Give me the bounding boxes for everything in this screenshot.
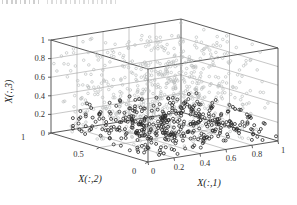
svg-text:0.8: 0.8 [34,53,45,63]
svg-text:1: 1 [41,35,45,45]
svg-text:0: 0 [151,166,155,176]
series-light-gray-cloud [53,22,270,155]
svg-text:0.5: 0.5 [73,149,84,159]
scatter3d-figure: 00.20.40.60.8100.5100.20.40.60.81 X(:,1)… [0,0,297,205]
y-axis-label: X(:,2) [67,173,113,184]
svg-text:0: 0 [41,128,45,138]
svg-text:0.2: 0.2 [174,162,185,172]
svg-text:0.8: 0.8 [252,149,263,159]
plot-canvas: 00.20.40.60.8100.5100.20.40.60.81 [0,0,297,205]
svg-text:0.4: 0.4 [200,158,211,168]
x-axis-label: X(:,1) [186,177,232,188]
z-axis-label: X(:,3) [3,72,16,112]
svg-text:0: 0 [132,166,136,176]
svg-text:0.2: 0.2 [34,109,45,119]
svg-text:0.6: 0.6 [226,153,237,163]
svg-text:1: 1 [21,132,25,142]
svg-text:0.6: 0.6 [34,72,45,82]
svg-text:0.4: 0.4 [34,91,45,101]
svg-text:1: 1 [281,145,285,155]
